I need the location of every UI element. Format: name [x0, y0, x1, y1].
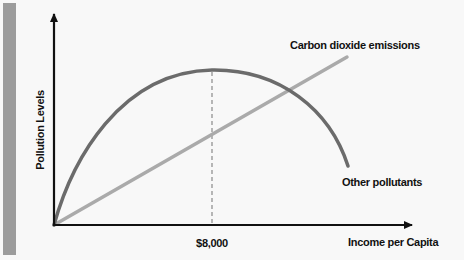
other-pollutants-label: Other pollutants: [342, 176, 422, 188]
kuznets-chart: Carbon dioxide emissions Other pollutant…: [0, 0, 464, 260]
co2-emissions-line: [54, 57, 347, 225]
y-axis-title: Pollution Levels: [34, 90, 46, 170]
chart-frame: Carbon dioxide emissions Other pollutant…: [0, 0, 464, 260]
x-tick-label-8000: $8,000: [196, 237, 228, 249]
co2-label: Carbon dioxide emissions: [290, 39, 420, 51]
x-axis-title: Income per Capita: [348, 236, 439, 248]
other-pollutants-curve: [54, 70, 348, 225]
